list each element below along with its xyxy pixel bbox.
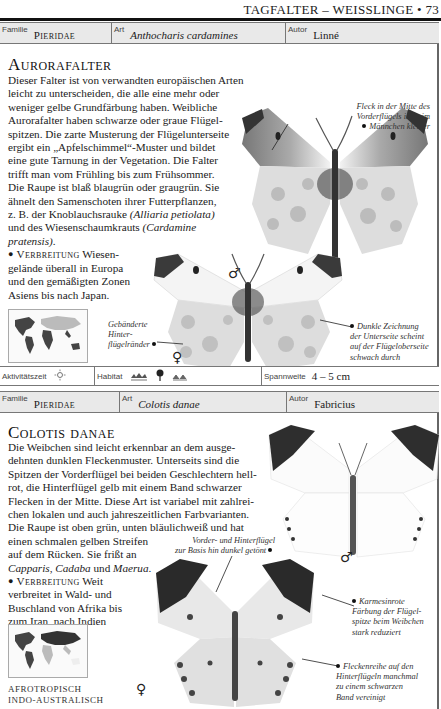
caption-line: stark reduziert xyxy=(352,628,424,638)
familie-label: Familie xyxy=(2,25,28,34)
description-line: eine gute Tarnung in der Vegetation. Die… xyxy=(8,154,243,167)
wingspan-cell: Spannweite 4 – 5 cm xyxy=(262,367,439,385)
wetland-icon xyxy=(130,367,148,385)
dot-icon xyxy=(268,548,272,552)
caption-line: Band vereinigt xyxy=(336,693,418,703)
autor-cell: Autor Fabricius xyxy=(287,392,439,412)
caption-line: der Unterseite scheint xyxy=(350,332,429,342)
dot-icon xyxy=(352,599,356,603)
species-title: Aurorafalter xyxy=(8,55,112,75)
caption-line: zur Basis hin dunkel getönt xyxy=(175,546,275,556)
caption-line: Dunkle Zeichnung xyxy=(350,322,429,332)
text: und des Wiesenschaumkrauts xyxy=(8,221,143,233)
description-line: Die Weibchen sind leicht erkennbar an de… xyxy=(8,441,257,454)
caption-leader-line xyxy=(320,593,356,609)
species-entry-colotis-danae: Familie Pieridae Art Colotis danae Autor… xyxy=(0,391,439,709)
info-bar: Familie Pieridae Art Colotis danae Autor… xyxy=(0,391,439,413)
wingspan-value: 4 – 5 cm xyxy=(312,370,350,382)
description-line: Die Raupe ist oben grün, unten bläulichw… xyxy=(8,521,257,534)
autor-label: Autor xyxy=(289,394,308,403)
description-line: leicht zu unterscheiden, die alle eine m… xyxy=(8,87,243,100)
caption-line: spitze beim Weibchen xyxy=(352,617,424,627)
caption-line: Hinterflügeln manchmal xyxy=(336,672,418,682)
dot-icon xyxy=(362,124,366,128)
familie-cell: Familie Pieridae xyxy=(0,392,120,412)
familie-label: Familie xyxy=(2,394,28,403)
familie-value: Pieridae xyxy=(34,398,75,410)
plant-name: pratensis) xyxy=(8,235,53,247)
caption-text: zur Basis hin dunkel getönt xyxy=(175,546,266,555)
sun-icon xyxy=(54,367,66,385)
description-line: Dieser Falter ist von verwandten europäi… xyxy=(8,74,243,87)
female-symbol: ♀ xyxy=(172,349,182,365)
species-title: Colotis danae xyxy=(8,423,115,443)
dot-icon xyxy=(336,664,340,668)
caption-line: Fleck in der Mitte des xyxy=(290,102,430,112)
text: . xyxy=(53,235,56,247)
plant-name: Maerua xyxy=(113,562,148,574)
art-value: Colotis danae xyxy=(138,398,199,410)
caption-line: zu einem schwarzen xyxy=(336,682,418,692)
description-line: trifft man vom Frühling bis zum Frühsomm… xyxy=(8,168,243,181)
species-entry-aurorafalter: Familie Pieridae Art Anthocharis cardami… xyxy=(0,22,439,386)
description-line: und des Wiesenschaumkrauts (Cardamine xyxy=(8,221,243,234)
butterfly-female-illustration xyxy=(150,553,320,709)
caption-text: Männchen kleiner xyxy=(369,122,430,131)
world-map-icon xyxy=(9,625,87,677)
distribution-label: Verbreitung xyxy=(16,248,79,260)
caption-line: auf der Flügeloberseite xyxy=(350,342,429,352)
world-map xyxy=(8,309,88,363)
caption-male-spot: Fleck in der Mitte des Vorderflügels ist… xyxy=(290,102,430,133)
text: Weit xyxy=(80,575,103,587)
plant-name: (Cardamine xyxy=(143,221,197,233)
caption-line: Färbung der Flügel- xyxy=(352,607,424,617)
dot-icon xyxy=(350,324,354,328)
art-value: Anthocharis cardamines xyxy=(130,29,237,41)
female-symbol: ♀ xyxy=(136,681,146,697)
description-line: ergibt ein „Apfelschimmel“-Muster und bi… xyxy=(8,141,243,154)
caption-text: Dunkle Zeichnung xyxy=(357,322,419,331)
description-line: Flecken in der Mitte. Diese Art ist vari… xyxy=(8,495,257,508)
art-label: Art xyxy=(122,394,132,403)
plant-name: Capparis xyxy=(8,562,50,574)
text: Wiesen- xyxy=(80,248,119,260)
male-symbol: ♂ xyxy=(340,549,353,565)
footer-bar: Aktivitätszeit Habitat Spannweite 4 – 5 … xyxy=(0,366,439,386)
autor-label: Autor xyxy=(288,25,307,34)
caption-dark-base: Vorder- und Hinterflügel zur Basis hin d… xyxy=(175,536,275,556)
description-line: Aurorafalter haben schwarze oder graue F… xyxy=(8,114,243,127)
caption-spot-row: Fleckenreihe auf den Hinterflügeln manch… xyxy=(336,662,418,703)
art-cell: Art Colotis danae xyxy=(120,392,287,412)
caption-crimson-tip: Karmesinrote Färbung der Flügel- spitze … xyxy=(352,597,424,638)
art-cell: Art Anthocharis cardamines xyxy=(112,23,286,43)
plant-name: (Alliaria petiolata) xyxy=(130,208,215,220)
activity-cell: Aktivitätszeit xyxy=(0,367,95,385)
familie-cell: Familie Pieridae xyxy=(0,23,112,43)
habitat-label: Habitat xyxy=(97,372,122,381)
caption-line: Fleckenreihe auf den xyxy=(336,662,418,672)
caption-line: Vorder- und Hinterflügel xyxy=(175,536,275,546)
description-line: chen lokalen und auch jahreszeitlichen F… xyxy=(8,508,257,521)
caption-line: Hinter- xyxy=(108,330,159,340)
map-region-label-line: AFROTROPISCH xyxy=(8,684,104,695)
caption-text: Fleckenreihe auf den xyxy=(343,662,413,671)
autor-cell: Autor Linné xyxy=(286,23,439,43)
description-line: pratensis). xyxy=(8,235,243,248)
caption-leader-line xyxy=(300,657,340,669)
caption-text: flügelränder xyxy=(108,340,150,349)
map-region-label: AFROTROPISCH INDO-AUSTRALISCH xyxy=(8,684,104,706)
grassland-icon xyxy=(172,367,188,385)
caption-hindwing-bands: Gebänderte Hinter- flügelränder xyxy=(108,320,159,351)
caption-line: Karmesinrote xyxy=(352,597,424,607)
description-line: spitzen. Die zarte Musterung der Flügelu… xyxy=(8,128,243,141)
description-line: rot, die Hinterflügel gelb mit einem Ban… xyxy=(8,481,257,494)
habitat-cell: Habitat xyxy=(95,367,262,385)
description-line: dehnten dunklen Fleckenmuster. Unterseit… xyxy=(8,454,257,467)
text: z. B. der Knoblauchsrauke xyxy=(8,208,130,220)
tree-icon xyxy=(156,367,164,385)
familie-value: Pieridae xyxy=(34,29,75,41)
plant-name: Cadaba xyxy=(55,562,90,574)
description-line: weniger gelbe Grundfärbung haben. Weibli… xyxy=(8,101,243,114)
autor-value: Linné xyxy=(313,29,339,41)
world-map xyxy=(8,624,88,678)
